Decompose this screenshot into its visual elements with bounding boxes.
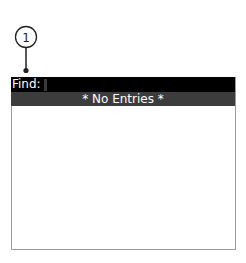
callout-dot-icon	[23, 68, 28, 73]
callout-marker: 1	[0, 0, 60, 80]
no-entries-message: * No Entries *	[82, 92, 164, 106]
callout-number: 1	[22, 31, 30, 45]
find-input[interactable]	[44, 79, 47, 91]
find-bar: Find:	[11, 77, 235, 92]
find-label: Find:	[11, 77, 41, 92]
entries-header: * No Entries *	[11, 92, 235, 106]
